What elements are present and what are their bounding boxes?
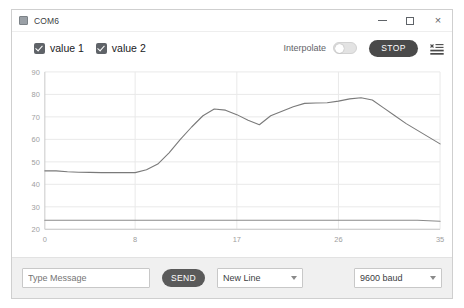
serial-plotter-window: COM6 × value 1 bbox=[11, 9, 453, 299]
maximize-button[interactable] bbox=[396, 10, 424, 31]
y-tick-label: 60 bbox=[32, 135, 40, 144]
y-tick-label: 40 bbox=[32, 180, 40, 189]
x-tick-label: 0 bbox=[43, 235, 47, 244]
send-button[interactable]: SEND bbox=[162, 269, 205, 287]
screenshot-root: COM6 × value 1 bbox=[0, 0, 464, 308]
line-ending-value: New Line bbox=[223, 273, 285, 283]
toggle-knob bbox=[335, 44, 344, 53]
x-tick-label: 26 bbox=[334, 235, 342, 244]
series-toggle-value-1[interactable]: value 1 bbox=[34, 42, 84, 54]
series-label-value-2: value 2 bbox=[112, 42, 146, 54]
y-tick-label: 20 bbox=[32, 225, 40, 234]
y-tick-label: 50 bbox=[32, 158, 40, 167]
y-tick-label: 90 bbox=[32, 68, 40, 77]
minimize-button[interactable] bbox=[368, 10, 396, 31]
stop-button[interactable]: STOP bbox=[369, 40, 418, 57]
chevron-down-icon-baud bbox=[430, 276, 436, 280]
y-tick-label: 70 bbox=[32, 113, 40, 122]
message-input[interactable] bbox=[22, 268, 150, 288]
x-tick-label: 8 bbox=[133, 235, 137, 244]
interpolate-toggle[interactable] bbox=[333, 42, 357, 54]
x-tick-label: 35 bbox=[436, 235, 444, 244]
title-bar: COM6 × bbox=[12, 10, 452, 32]
close-button[interactable]: × bbox=[424, 10, 452, 31]
x-tick-label: 17 bbox=[233, 235, 241, 244]
close-icon: × bbox=[435, 15, 441, 26]
checkbox-value-2[interactable] bbox=[96, 43, 107, 54]
checkbox-value-1[interactable] bbox=[34, 43, 45, 54]
maximize-icon bbox=[406, 17, 414, 25]
interpolate-label: Interpolate bbox=[283, 43, 326, 53]
clear-list-icon[interactable] bbox=[430, 42, 444, 55]
window-title: COM6 bbox=[34, 16, 368, 26]
baud-rate-select[interactable]: 9600 baud bbox=[354, 268, 442, 288]
baud-rate-value: 9600 baud bbox=[360, 273, 424, 283]
chart-toolbar: value 1 value 2 Interpolate STOP bbox=[12, 32, 452, 64]
chart-area[interactable]: 203040506070809008172635 bbox=[12, 64, 452, 257]
serial-input-bar: SEND New Line 9600 baud bbox=[12, 257, 452, 298]
minimize-icon bbox=[378, 20, 387, 21]
app-icon bbox=[19, 16, 28, 25]
window-controls: × bbox=[368, 10, 452, 31]
y-tick-label: 80 bbox=[32, 90, 40, 99]
series-legend: value 1 value 2 bbox=[34, 42, 146, 54]
series-line-2 bbox=[45, 220, 440, 221]
y-tick-label: 30 bbox=[32, 203, 40, 212]
line-ending-select[interactable]: New Line bbox=[217, 268, 303, 288]
series-toggle-value-2[interactable]: value 2 bbox=[96, 42, 146, 54]
chevron-down-icon bbox=[291, 276, 297, 280]
series-label-value-1: value 1 bbox=[50, 42, 84, 54]
line-chart: 203040506070809008172635 bbox=[12, 64, 452, 257]
